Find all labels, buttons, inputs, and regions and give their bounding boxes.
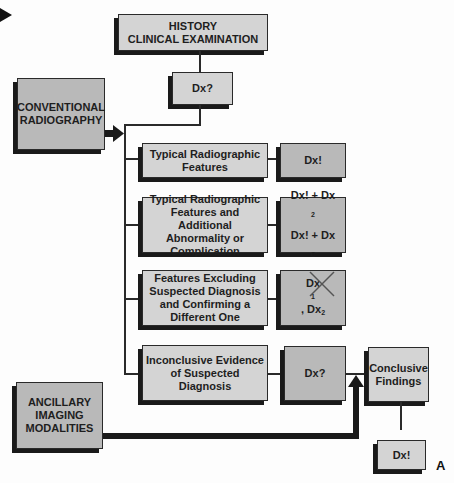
findings-label: Findings <box>369 375 428 388</box>
result-text: Dx <box>307 303 321 315</box>
conclusive-findings-box: ConclusiveFindings <box>368 347 429 402</box>
result-text: Dx! + Dx <box>291 185 335 205</box>
branch-text: Features and Additional <box>143 206 267 232</box>
branch-text: Inconclusive Evidence <box>143 354 267 367</box>
branch-inconclusive-box: Inconclusive Evidenceof Suspected Diagno… <box>142 345 268 401</box>
trunk-line <box>124 124 126 374</box>
result-subscript: C <box>291 245 335 265</box>
result-dx-confirmed-box: Dx! <box>280 143 346 178</box>
ancillary-label: ANCILLARY <box>26 396 94 409</box>
branch-text: Abnormality or <box>143 232 267 245</box>
connector <box>124 373 142 375</box>
connector <box>268 158 280 160</box>
corner-arrow-icon <box>0 8 14 22</box>
result-subscript: 2 <box>291 205 335 225</box>
figure-label: A <box>436 458 445 473</box>
result-dx-uncertain-box: Dx? <box>284 346 346 401</box>
result-text: Dx! + Dx <box>291 225 335 245</box>
branch-text: Features <box>150 161 260 174</box>
connector <box>124 224 142 226</box>
branch-text: Typical Radiographic <box>150 148 260 161</box>
conclusive-label: Conclusive <box>369 362 428 375</box>
connector <box>268 298 280 300</box>
arrow-up-icon <box>348 375 364 387</box>
diagnostic-flowchart: HISTORYCLINICAL EXAMINATION Dx? CONVENTI… <box>0 0 454 483</box>
connector <box>124 124 201 126</box>
history-label: HISTORY <box>128 20 258 33</box>
final-dx-box: Dx! <box>377 440 426 470</box>
connector <box>268 373 280 375</box>
branch-typical-features-box: Typical RadiographicFeatures <box>142 143 268 178</box>
conventional-radiography-box: CONVENTIONALRADIOGRAPHY <box>17 78 105 150</box>
modalities-label: MODALITIES <box>26 422 94 435</box>
branch-excluding-diagnosis-box: Features ExcludingSuspected Diagnosisand… <box>142 270 268 326</box>
connector <box>400 402 402 430</box>
initial-dx-box: Dx? <box>172 72 233 105</box>
result-dx-excluded-box: Dx1 , Dx2 <box>280 270 346 326</box>
result-dx-plus-box: Dx! + Dx2 Dx! + DxC <box>280 197 346 253</box>
connector <box>199 51 201 72</box>
initial-dx-label: Dx? <box>192 82 213 95</box>
connector <box>199 105 201 125</box>
connector <box>268 224 280 226</box>
ancillary-arrow-shaft <box>103 433 359 439</box>
ancillary-arrow-shaft <box>353 386 359 439</box>
radiography-label: RADIOGRAPHY <box>17 114 105 127</box>
history-clinical-exam-box: HISTORYCLINICAL EXAMINATION <box>118 14 268 51</box>
branch-text: Features Excluding <box>149 272 260 285</box>
cross-out-icon <box>309 271 335 297</box>
branch-text: Suspected Diagnosis <box>149 285 260 298</box>
result-text: Dx? <box>305 367 326 380</box>
conventional-label: CONVENTIONAL <box>17 101 105 114</box>
result-text: Dx! <box>304 154 322 167</box>
clinical-exam-label: CLINICAL EXAMINATION <box>128 33 258 46</box>
result-subscript: 2 <box>321 309 325 316</box>
connector <box>124 158 142 160</box>
branch-text: Typical Radiographic <box>143 193 267 206</box>
final-dx-label: Dx! <box>393 449 411 462</box>
imaging-label: IMAGING <box>26 409 94 422</box>
crossed-dx: Dx1 <box>301 277 325 303</box>
branch-text: Different One <box>149 311 260 324</box>
branch-text: Complication <box>143 245 267 258</box>
ancillary-imaging-box: ANCILLARYIMAGINGMODALITIES <box>16 382 103 449</box>
branch-text: and Confirming a <box>149 298 260 311</box>
branch-text: of Suspected Diagnosis <box>143 367 267 393</box>
connector <box>124 298 142 300</box>
branch-additional-abnormality-box: Typical RadiographicFeatures and Additio… <box>142 197 268 253</box>
